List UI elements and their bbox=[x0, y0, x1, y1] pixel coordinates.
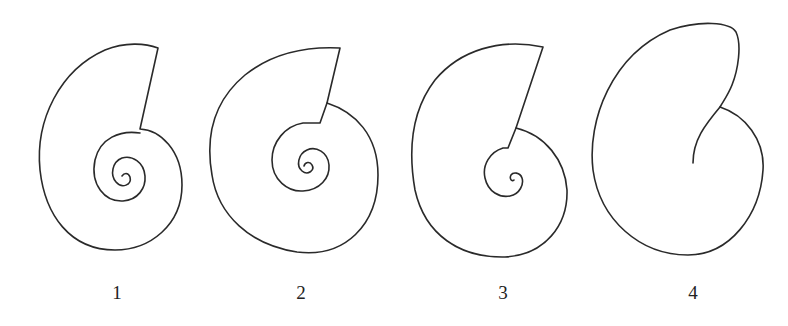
shell-label-3: 3 bbox=[488, 282, 518, 304]
shell-4-drawing bbox=[592, 23, 763, 255]
shell-figure: 1 2 3 4 bbox=[0, 0, 788, 326]
shell-3-drawing bbox=[412, 44, 567, 257]
shell-label-1: 1 bbox=[102, 282, 132, 304]
shell-2-drawing bbox=[210, 48, 378, 253]
shell-label-2: 2 bbox=[286, 282, 316, 304]
shell-1-drawing bbox=[39, 44, 182, 250]
shell-label-4: 4 bbox=[678, 282, 708, 304]
